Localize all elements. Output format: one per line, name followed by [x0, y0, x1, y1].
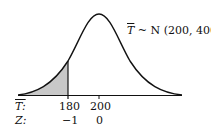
tick-label-t-200: 200 — [90, 101, 111, 113]
t-row-label: T: — [15, 101, 26, 113]
tick-label-t-180: 180 — [59, 101, 80, 113]
shaded-tail-area — [18, 61, 68, 95]
normal-curve-diagram — [0, 0, 211, 135]
tick-label-z-0: 0 — [96, 115, 103, 127]
z-row-label: Z: — [15, 115, 26, 127]
tick-label-z-neg1: −1 — [62, 115, 78, 127]
distribution-label: T ~ N (200, 400) — [127, 25, 211, 37]
